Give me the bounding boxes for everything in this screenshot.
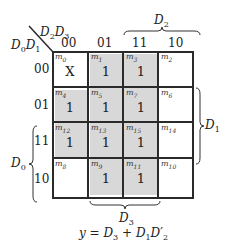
minterm-label: m12: [55, 123, 70, 134]
cell-m13: m13 1: [88, 122, 124, 158]
grid-line: [52, 86, 194, 88]
cell-m1: m1 1: [88, 51, 124, 87]
cell-value: 1: [123, 64, 159, 79]
kmap-grid: m0 X m1 1 m3 1 m2 m4 1 m5 1 m7 1 m6 m12 …: [52, 51, 194, 199]
minterm-label: m4: [55, 88, 66, 99]
cell-value: 1: [123, 135, 159, 150]
cell-m11: m11 1: [123, 158, 159, 198]
cell-value: 1: [88, 135, 124, 150]
grid-line: [52, 51, 54, 199]
cell-m2: m2: [158, 51, 194, 87]
cell-m3: m3 1: [123, 51, 159, 87]
brace-label-d3: D3: [119, 211, 134, 227]
cell-m0: m0 X: [52, 51, 88, 87]
minterm-label: m9: [91, 159, 102, 170]
cell-value: 1: [88, 64, 124, 79]
grid-line: [122, 51, 124, 199]
cell-value: 1: [52, 135, 88, 150]
grid-line: [192, 51, 194, 199]
cell-value: 1: [123, 171, 159, 186]
row-vars-label: D0D1: [11, 38, 40, 54]
cell-value: 1: [88, 171, 124, 186]
brace-label-d1: D1: [205, 118, 220, 134]
minterm-label: m2: [161, 52, 172, 63]
cell-m15: m15 1: [123, 122, 159, 158]
cell-m7: m7 1: [123, 87, 159, 123]
minterm-label: m5: [91, 88, 102, 99]
minterm-label: m11: [126, 159, 141, 170]
brace-d0: [29, 124, 43, 204]
brace-label-d0: D0: [11, 156, 26, 172]
cell-m9: m9 1: [88, 158, 124, 198]
minterm-label: m1: [91, 52, 102, 63]
cell-m8: m8: [52, 158, 88, 198]
grid-line: [52, 51, 194, 53]
brace-label-d2: D2: [154, 13, 169, 29]
cell-value: 1: [52, 100, 88, 115]
minterm-label: m3: [126, 52, 137, 63]
minterm-label: m8: [55, 159, 66, 170]
cell-m4: m4 1: [52, 87, 88, 123]
minterm-label: m13: [91, 123, 106, 134]
cell-m14: m14: [158, 122, 194, 158]
minterm-label: m0: [55, 52, 66, 63]
equation: y = D3 + D1D′2: [79, 226, 168, 242]
grid-line: [52, 197, 194, 199]
cell-value: 1: [123, 100, 159, 115]
grid-line: [52, 121, 194, 123]
row-header-01: 01: [34, 98, 49, 112]
grid-line: [157, 51, 159, 199]
cell-value: 1: [88, 100, 124, 115]
cell-m12: m12 1: [52, 122, 88, 158]
col-header-01: 01: [97, 36, 112, 50]
minterm-label: m7: [126, 88, 137, 99]
grid-line: [87, 51, 89, 199]
cell-value: X: [52, 64, 88, 79]
row-header-00: 00: [34, 62, 49, 76]
minterm-label: m10: [161, 159, 176, 170]
cell-m5: m5 1: [88, 87, 124, 123]
minterm-label: m6: [161, 88, 172, 99]
col-header-00: 00: [61, 36, 76, 50]
minterm-label: m15: [126, 123, 141, 134]
grid-line: [52, 157, 194, 159]
minterm-label: m14: [161, 123, 176, 134]
cell-m10: m10: [158, 158, 194, 198]
cell-m6: m6: [158, 87, 194, 123]
